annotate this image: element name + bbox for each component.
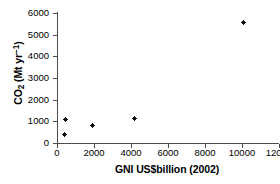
y-tick-label: 0	[5, 138, 49, 148]
y-tick-label: 1000	[5, 116, 49, 126]
scatter-chart: CO2 (Mt yr−1) GNI US$billion (2002) 0100…	[0, 0, 280, 184]
x-axis-title: GNI US$billion (2002)	[56, 163, 278, 175]
plot-area	[57, 13, 279, 143]
x-tick-label: 12000	[256, 148, 280, 158]
data-point	[62, 132, 67, 137]
data-point	[132, 116, 137, 121]
y-axis-title-subscript: 2	[17, 85, 26, 89]
y-tick-label: 4000	[5, 51, 49, 61]
y-tick-label: 6000	[5, 8, 49, 18]
y-tick-label: 3000	[5, 73, 49, 83]
data-point	[90, 123, 95, 128]
data-point	[241, 20, 246, 25]
y-tick-label: 2000	[5, 95, 49, 105]
y-tick-label: 5000	[5, 30, 49, 40]
data-point	[63, 117, 68, 122]
y-axis-title-tail: )	[12, 41, 24, 44]
